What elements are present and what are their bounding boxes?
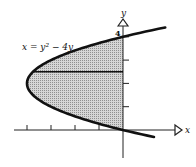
y-ticks	[123, 37, 129, 107]
x-ticks	[27, 125, 99, 130]
y-tick-label-4: 4	[115, 28, 121, 38]
x-axis-label: x	[185, 125, 190, 135]
diagram-canvas: x = y² − 4y x y 4	[0, 0, 196, 167]
x-axis-arrowhead	[175, 125, 182, 135]
y-axis-arrowhead	[118, 19, 128, 26]
equation-label: x = y² − 4y	[22, 42, 74, 52]
y-axis-label: y	[120, 8, 127, 18]
